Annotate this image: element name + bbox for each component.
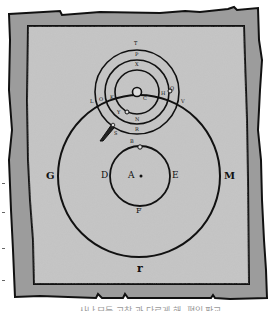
body-lower-left [125,110,129,114]
label-r: r [137,262,143,275]
label-o: O [99,96,103,102]
label-m: M [224,170,235,181]
label-x: X [135,61,139,67]
margin-dash [2,248,5,249]
label-n: N [135,116,139,122]
margin-dash [2,183,5,184]
label-f: F [136,206,142,215]
label-k: K [110,94,114,100]
label-a: A [128,170,135,180]
label-l: L [90,98,93,104]
label-g: G [46,170,55,181]
center-dot [140,175,143,178]
label-v: V [181,98,185,104]
label-s: S [114,130,117,136]
margin-dash [2,212,5,213]
diagram-figure: G M r D E F A T P X C L O K N R B H Q V … [0,0,272,311]
caption-text: ...사나 모든 고찰 과 다르게 해, 편입 판교 [70,300,270,311]
label-c: C [143,95,147,101]
label-rr: R [135,126,139,132]
label-y: Y [117,109,120,115]
label-e: E [172,170,179,180]
margin-dash [2,280,5,281]
label-q: Q [170,85,174,91]
label-b: B [130,138,134,144]
label-p: P [135,51,138,57]
planet-circle [133,88,142,97]
body-top-inner [138,145,142,149]
label-d: D [101,170,108,180]
label-h: H [161,90,165,96]
label-t: T [134,40,137,46]
